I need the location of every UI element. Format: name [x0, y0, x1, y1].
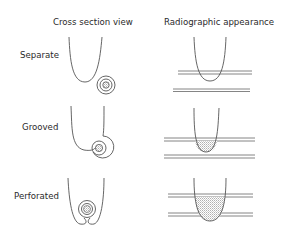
perforated-radiograph	[168, 178, 253, 221]
stippled-shadow	[195, 197, 225, 221]
root-outline-left	[71, 106, 95, 150]
root-outline-right	[103, 106, 104, 136]
grooved-radiograph	[164, 108, 255, 158]
separate-cross-section	[69, 37, 115, 94]
root-canal-relationship-diagram: Cross section view Radiographic appearan…	[0, 0, 281, 235]
header-cross-section: Cross section view	[53, 17, 133, 27]
canal-core	[103, 82, 109, 88]
grooved-cross-section	[71, 106, 114, 158]
canal-core	[84, 206, 91, 213]
row-label-separate: Separate	[20, 50, 59, 60]
perforated-cross-section	[68, 178, 104, 224]
canal-core	[95, 144, 102, 151]
row-label-grooved: Grooved	[22, 122, 58, 132]
root-outline	[69, 37, 102, 82]
separate-radiograph	[173, 37, 252, 92]
header-radiographic: Radiographic appearance	[164, 17, 274, 27]
row-label-perforated: Perforated	[14, 191, 59, 201]
